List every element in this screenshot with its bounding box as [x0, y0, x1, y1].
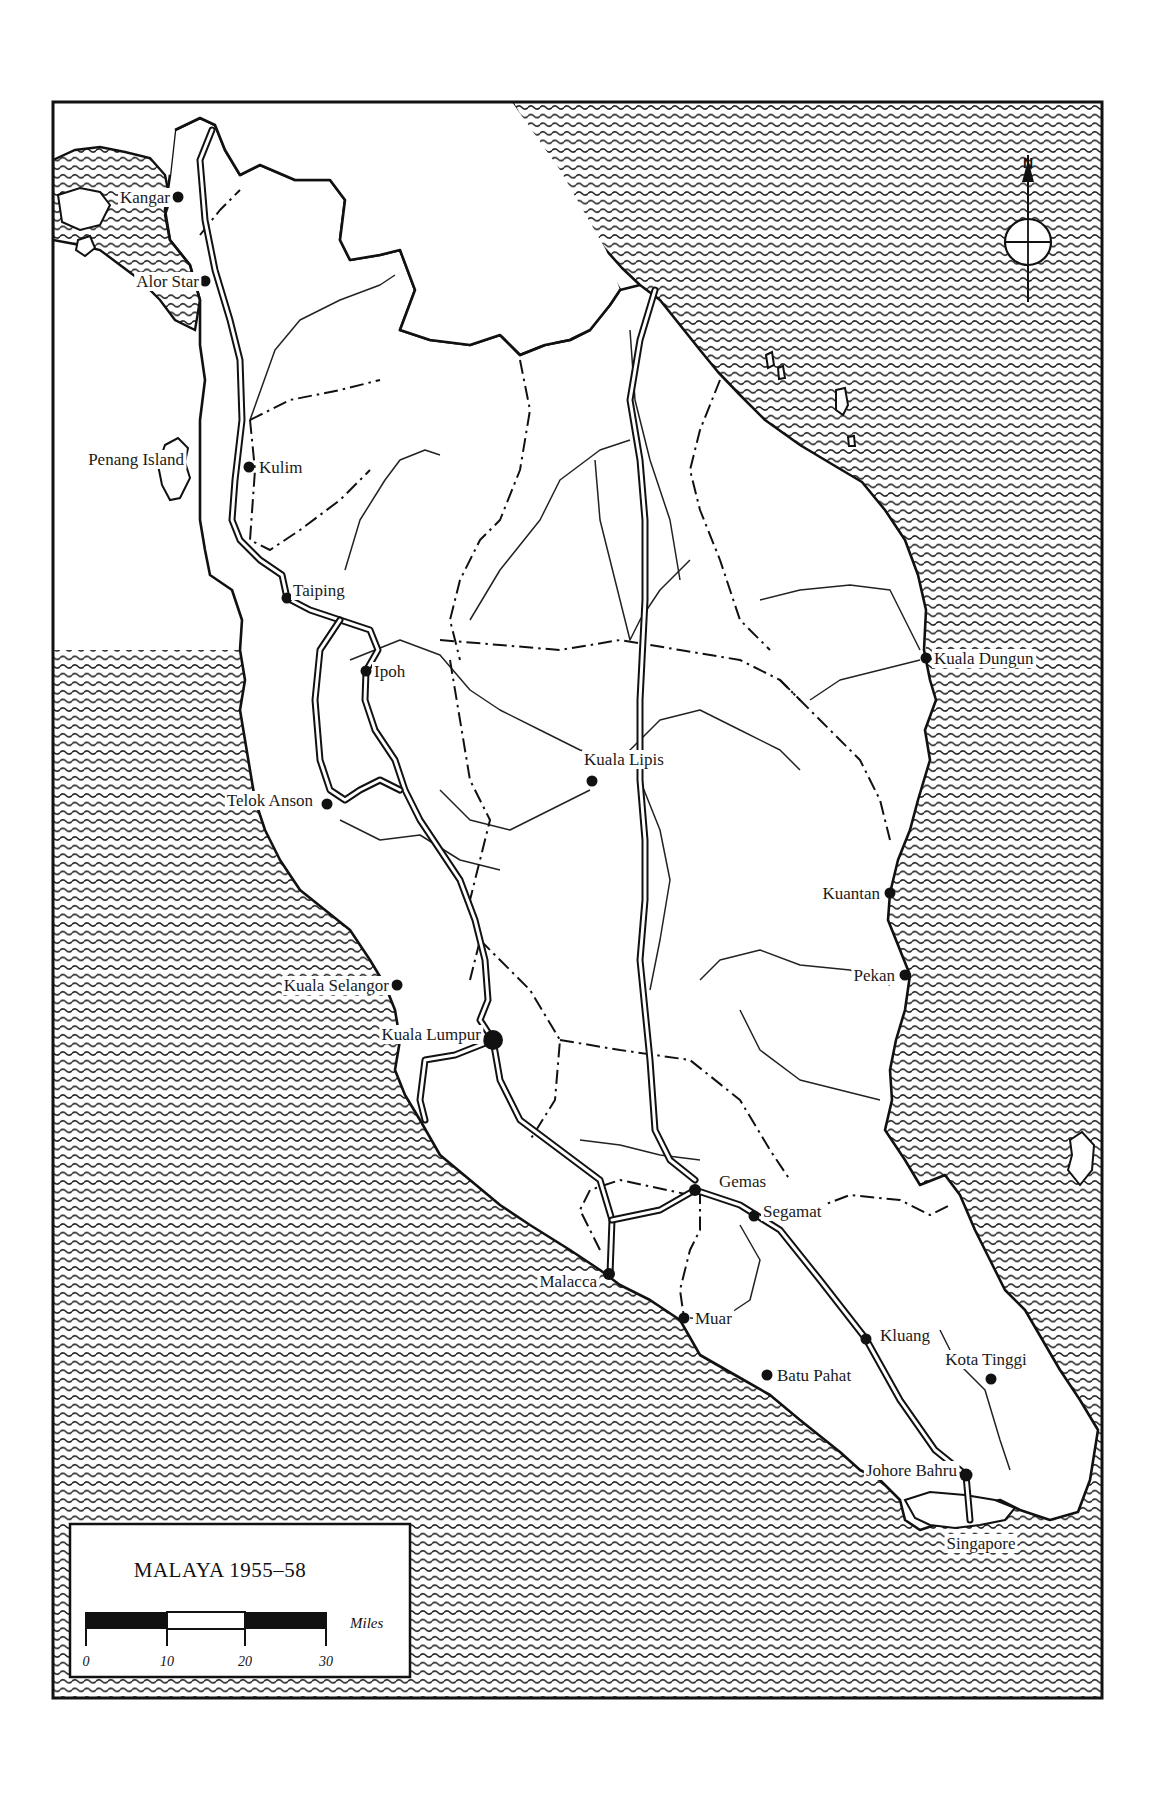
scale-unit-label: Miles: [349, 1615, 383, 1631]
town-label: Kuala Selangor: [284, 976, 390, 995]
town-label: Kuala Lumpur: [381, 1025, 481, 1044]
town-label: Johore Bahru: [866, 1461, 958, 1480]
town-dot-icon: [921, 653, 932, 664]
town-dot-icon: [603, 1268, 615, 1280]
island-east-1: [766, 352, 774, 368]
town-dot-icon: [749, 1211, 760, 1222]
town-kuala-selangor: Kuala Selangor: [282, 976, 403, 995]
town-label: Kuala Dungun: [934, 649, 1034, 668]
town-dot-icon: [861, 1334, 872, 1345]
town-dot-icon: [392, 980, 403, 991]
town-penang-island: Penang Island: [86, 450, 186, 469]
town-dot-icon: [900, 970, 911, 981]
town-label: Muar: [695, 1309, 732, 1328]
town-label: Kota Tinggi: [945, 1350, 1027, 1369]
town-singapore: Singapore: [945, 1534, 1018, 1553]
town-label: Kluang: [880, 1326, 931, 1345]
town-dot-icon: [689, 1184, 701, 1196]
town-label: Segamat: [763, 1202, 822, 1221]
town-label: Batu Pahat: [777, 1366, 851, 1385]
map-legend: MALAYA 1955–58 0 10 20 30 Miles: [70, 1524, 410, 1677]
town-label: Pekan: [853, 966, 895, 985]
island-east-2: [778, 366, 785, 379]
scale-tick-10: 10: [160, 1654, 174, 1669]
town-alor-star: Alor Star: [134, 272, 210, 291]
town-dot-icon: [361, 666, 372, 677]
town-label: Kuantan: [822, 884, 880, 903]
town-dot-icon: [960, 1469, 973, 1482]
town-dot-icon: [679, 1313, 690, 1324]
town-label: Gemas: [719, 1172, 766, 1191]
town-label: Taiping: [293, 581, 345, 600]
map-canvas: KangarAlor StarPenang IslandKulimTaiping…: [0, 0, 1164, 1812]
town-dot-icon: [173, 192, 184, 203]
town-batu-pahat: Batu Pahat: [762, 1366, 854, 1385]
town-label: Singapore: [947, 1534, 1016, 1553]
town-dot-icon: [483, 1030, 503, 1050]
town-label: Kuala Lipis: [584, 750, 664, 769]
town-dot-icon: [322, 799, 333, 810]
town-kuala-dungun: Kuala Dungun: [921, 649, 1037, 668]
town-dot-icon: [885, 888, 896, 899]
town-dot-icon: [587, 776, 598, 787]
scale-tick-30: 30: [318, 1654, 333, 1669]
town-dot-icon: [244, 462, 255, 473]
town-label: Telok Anson: [227, 791, 314, 810]
town-label: Penang Island: [88, 450, 184, 469]
town-dot-icon: [986, 1374, 997, 1385]
town-johore-bahru: Johore Bahru: [864, 1461, 973, 1482]
town-label: Alor Star: [136, 272, 199, 291]
town-dot-icon: [762, 1370, 773, 1381]
town-label: Kangar: [120, 188, 170, 207]
town-label: Ipoh: [374, 662, 406, 681]
scale-tick-0: 0: [83, 1654, 90, 1669]
town-dot-icon: [282, 593, 293, 604]
map-title: MALAYA 1955–58: [134, 1558, 307, 1582]
island-east-4: [848, 436, 855, 446]
town-label: Malacca: [539, 1272, 597, 1291]
town-label: Kulim: [259, 458, 302, 477]
scale-tick-20: 20: [238, 1654, 252, 1669]
north-label: N: [1023, 155, 1033, 171]
